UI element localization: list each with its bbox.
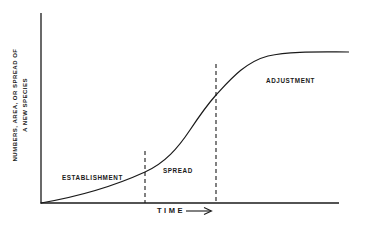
x-axis-label: TIME [157,206,185,215]
y-axis-label-line2: A NEW SPECIES [20,49,30,162]
arrow-right-icon [186,208,212,215]
phase-label-adjustment: ADJUSTMENT [266,77,315,84]
y-axis-label-line1: NUMBERS, AREA, OR SPREAD OF [10,49,20,162]
y-axis-label-container: NUMBERS, AREA, OR SPREAD OF A NEW SPECIE… [3,20,37,190]
phase-label-establishment: ESTABLISHMENT [62,174,123,181]
sigmoid-growth-diagram [0,0,365,225]
y-axis-label: NUMBERS, AREA, OR SPREAD OF A NEW SPECIE… [10,49,30,162]
phase-label-spread: SPREAD [163,167,193,174]
